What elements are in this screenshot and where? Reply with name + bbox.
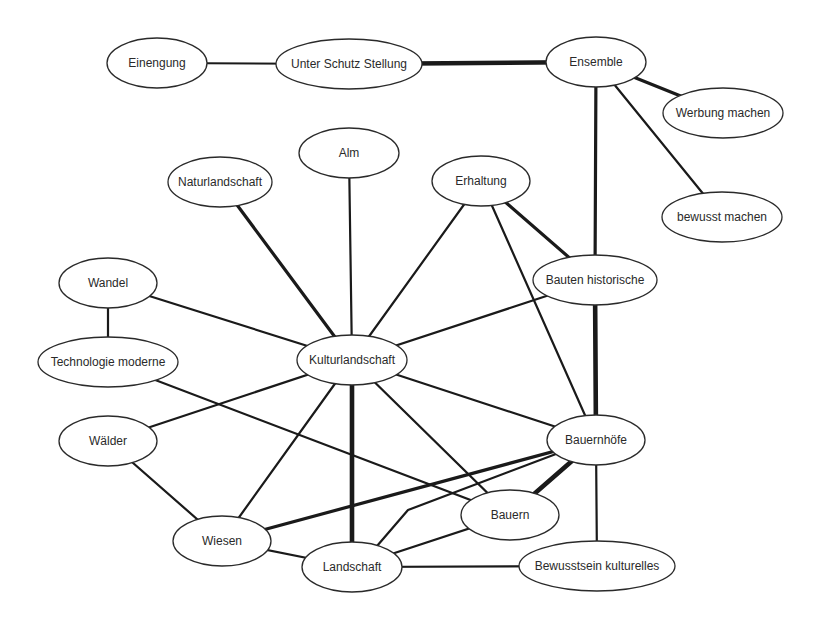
node-label: Kulturlandschaft [309,353,396,367]
node-label: Landschaft [323,560,382,574]
node-einengung: Einengung [107,38,207,88]
node-technologie: Technologie moderne [38,337,178,387]
node-label: Bauten historische [546,273,645,287]
edges-layer [108,62,723,567]
edge-ensemble-bauten [595,62,596,280]
node-alm: Alm [299,128,399,178]
concept-network-diagram: EinengungUnter Schutz StellungEnsembleWe… [0,0,818,620]
node-naturlandschaft: Naturlandschaft [168,157,272,207]
edge-technologie-bauern [108,362,510,515]
node-label: Unter Schutz Stellung [291,57,407,71]
edge-erhaltung-bauernhoefe [481,181,596,440]
node-label: Bauern [491,508,530,522]
node-label: Bauernhöfe [565,433,627,447]
node-label: bewusst machen [677,210,767,224]
edge-alm-kulturlandschaft [349,153,352,360]
node-wiesen: Wiesen [173,516,271,566]
node-label: Technologie moderne [51,355,166,369]
node-landschaft: Landschaft [302,542,402,592]
edge-naturlandschaft-kulturlandschaft [220,182,352,360]
node-label: Naturlandschaft [178,175,263,189]
node-label: Wandel [88,276,128,290]
node-label: Ensemble [569,55,623,69]
node-bewusstsein: Bewusstsein kulturelles [519,541,675,591]
node-label: Einengung [128,56,185,70]
node-wandel: Wandel [59,258,157,308]
node-erhaltung: Erhaltung [432,156,530,206]
node-kulturlandschaft: Kulturlandschaft [297,335,407,385]
edge-erhaltung-kulturlandschaft [352,181,481,360]
node-bewusst: bewusst machen [662,192,782,242]
node-bauten: Bauten historische [533,255,657,305]
edge-kulturlandschaft-wiesen [222,360,352,541]
node-label: Erhaltung [455,174,506,188]
node-ensemble: Ensemble [546,37,646,87]
node-unter_schutz: Unter Schutz Stellung [276,39,422,89]
node-label: Alm [339,146,360,160]
node-waelder: Wälder [59,416,157,466]
node-bauernhoefe: Bauernhöfe [547,415,645,465]
node-bauern: Bauern [461,490,559,540]
node-werbung: Werbung machen [663,88,783,138]
node-label: Wiesen [202,534,242,548]
node-label: Wälder [89,434,127,448]
node-label: Werbung machen [676,106,771,120]
node-label: Bewusstsein kulturelles [535,559,660,573]
